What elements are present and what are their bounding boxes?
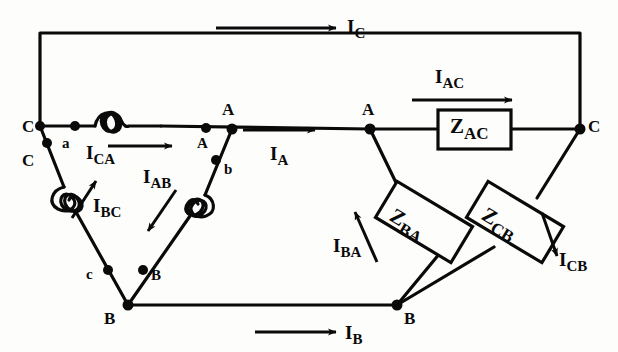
- current-IBA-sub: BA: [340, 244, 361, 260]
- current-arrow-IAB: [148, 190, 176, 231]
- impedance-ZAC-base: Z: [450, 114, 464, 138]
- current-label-IC: IC: [347, 17, 365, 36]
- wire-delta-CA-winding: [95, 112, 161, 132]
- circuit-schematic-svg: [0, 0, 618, 352]
- current-IAC-sub: AC: [442, 75, 464, 91]
- impedance-label-ZAC: ZAC: [450, 116, 489, 137]
- current-IBC-sub: BC: [100, 204, 121, 220]
- line-node-B-right: B: [404, 310, 415, 327]
- terminal-b: b: [224, 162, 232, 177]
- line-node-A-right: A: [362, 101, 374, 118]
- current-label-ICA: ICA: [86, 143, 115, 162]
- junction-dot-A-mid: [227, 124, 238, 135]
- wire-delta-AB-lower: [128, 216, 190, 305]
- wire-wye-C-branch-upper: [537, 129, 580, 198]
- terminal-dot-a: [70, 121, 80, 131]
- terminal-A-delta: A: [197, 136, 208, 151]
- terminal-c: c: [86, 267, 93, 282]
- terminal-C-delta: C: [22, 152, 34, 169]
- current-label-ICB: ICB: [559, 250, 587, 269]
- terminal-dot-A-delta: [201, 123, 211, 133]
- junction-dot-B-right: [392, 300, 403, 311]
- current-IA-sub: A: [277, 152, 288, 168]
- line-node-C-right: C: [588, 118, 600, 135]
- current-label-IA: IA: [270, 144, 288, 163]
- wire-delta-BC-lower: [76, 212, 128, 305]
- current-IC-sub: C: [354, 25, 365, 41]
- current-ICA-sub: CA: [93, 151, 115, 167]
- junction-dot-C-left: [35, 121, 45, 131]
- current-label-IB: IB: [345, 323, 362, 342]
- wire-group: [40, 33, 580, 305]
- current-IAB-sub: AB: [150, 175, 171, 191]
- current-label-IAB: IAB: [143, 167, 171, 186]
- line-node-B-left: B: [104, 310, 115, 327]
- junction-dot-C-right: [575, 124, 586, 135]
- line-node-A-mid: A: [222, 101, 234, 118]
- terminal-B-delta: B: [151, 268, 161, 283]
- junction-dot-A-right: [365, 124, 376, 135]
- current-label-IBA: IBA: [333, 236, 361, 255]
- circuit-diagram-canvas: C A A C B B a A b C c B IC IA IAC IB ICA…: [0, 0, 618, 352]
- current-ICB-sub: CB: [566, 258, 587, 274]
- line-node-C-left: C: [22, 118, 34, 135]
- terminal-dot-c: [103, 265, 113, 275]
- current-label-IBC: IBC: [93, 196, 121, 215]
- terminal-a: a: [62, 136, 70, 151]
- current-IB-sub: B: [352, 331, 362, 347]
- current-label-IAC: IAC: [435, 67, 464, 86]
- terminal-dot-b: [211, 155, 221, 165]
- junction-dot-B-left: [123, 300, 134, 311]
- wire-delta-BC-upper: [40, 126, 64, 187]
- terminal-dot-B-delta: [138, 265, 148, 275]
- wire-delta-AB-winding: [186, 195, 214, 217]
- impedance-ZAC-sub: AC: [464, 124, 489, 143]
- terminal-dot-C-delta: [42, 138, 52, 148]
